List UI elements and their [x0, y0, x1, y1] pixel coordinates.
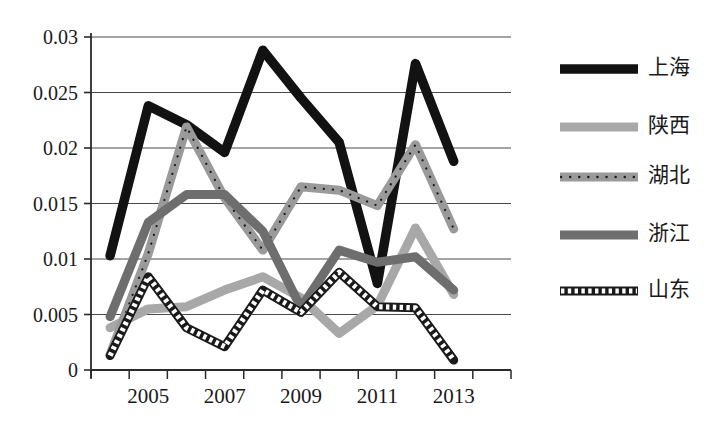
x-axis-tick-label: 2011	[357, 384, 398, 408]
legend-item-label: 陕西	[648, 115, 690, 136]
series-line-1	[110, 228, 454, 334]
legend-item-label: 湖北	[648, 165, 690, 186]
legend-item-2[interactable]: 湖北	[560, 158, 690, 192]
series-stroke	[110, 228, 454, 334]
x-axis-tick-label: 2009	[280, 384, 322, 408]
y-axis: 00.0050.010.0150.020.0250.03	[33, 26, 91, 381]
series-line-2	[110, 127, 454, 355]
legend-swatch-icon	[560, 119, 638, 131]
legend-item-0[interactable]: 上海	[560, 50, 690, 84]
legend-item-label: 上海	[648, 57, 690, 78]
y-axis-tick-label: 0.03	[43, 26, 78, 48]
gridlines	[91, 37, 511, 370]
legend-item-label: 浙江	[648, 223, 690, 244]
legend-item-3[interactable]: 浙江	[560, 216, 690, 250]
y-axis-tick-label: 0.015	[33, 193, 78, 215]
legend-item-1[interactable]: 陕西	[560, 108, 690, 142]
legend-item-label: 山东	[648, 279, 690, 300]
legend-swatch-icon	[560, 283, 638, 295]
chart-legend: 上海陕西湖北浙江山东	[560, 40, 720, 320]
figure-caption	[0, 424, 725, 448]
y-axis-tick-label: 0.02	[43, 137, 78, 159]
y-axis-tick-label: 0.025	[33, 82, 78, 104]
x-axis-tick-label: 2005	[127, 384, 169, 408]
legend-swatch-icon	[560, 169, 638, 181]
y-axis-tick-label: 0.01	[43, 248, 78, 270]
x-axis-tick-label: 2007	[204, 384, 246, 408]
x-axis: 20052007200920112013	[91, 370, 511, 408]
legend-swatch-icon	[560, 61, 638, 73]
y-axis-tick-label: 0.005	[33, 304, 78, 326]
legend-item-4[interactable]: 山东	[560, 272, 690, 306]
x-axis-tick-label: 2013	[433, 384, 475, 408]
y-axis-tick-label: 0	[68, 359, 78, 381]
series-stroke	[110, 127, 454, 355]
series-group	[110, 50, 454, 360]
figure-container: 00.0050.010.0150.020.0250.03200520072009…	[0, 0, 725, 448]
legend-swatch-icon	[560, 227, 638, 239]
